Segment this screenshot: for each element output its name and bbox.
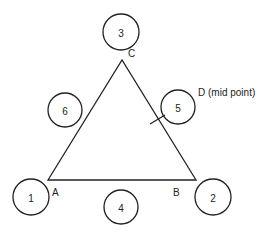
midpoint-label-d: D (mid point) — [198, 87, 255, 98]
position-number-2: 2 — [210, 193, 216, 204]
position-circle-4: 4 — [104, 190, 138, 224]
position-number-5: 5 — [175, 103, 181, 114]
position-number-3: 3 — [118, 28, 124, 39]
vertex-label-c: C — [128, 48, 135, 59]
triangle-diagram: A B C D (mid point) 1 2 3 4 5 6 — [0, 0, 270, 234]
vertex-label-b: B — [173, 187, 180, 198]
position-circle-6: 6 — [48, 93, 82, 127]
position-circle-1: 1 — [13, 179, 49, 215]
position-number-4: 4 — [118, 203, 124, 214]
position-circle-5: 5 — [161, 90, 195, 124]
position-number-1: 1 — [28, 193, 34, 204]
vertex-label-a: A — [52, 187, 59, 198]
triangle-abc — [48, 60, 196, 180]
position-number-6: 6 — [62, 106, 68, 117]
position-circle-3: 3 — [103, 14, 139, 50]
position-circle-2: 2 — [195, 179, 231, 215]
